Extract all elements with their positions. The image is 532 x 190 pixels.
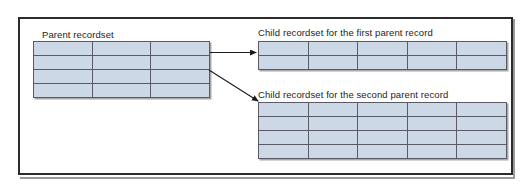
table-cell xyxy=(457,103,507,117)
table-cell xyxy=(358,145,408,159)
table-cell xyxy=(259,42,309,56)
table-cell xyxy=(309,42,359,56)
table-cell xyxy=(408,131,458,145)
table-cell xyxy=(93,42,152,56)
table-cell xyxy=(34,70,93,84)
table-cell xyxy=(457,56,507,70)
child-recordset-second-table xyxy=(258,102,507,159)
table-cell xyxy=(259,145,309,159)
table-cell xyxy=(457,42,507,56)
table-cell xyxy=(151,42,210,56)
table-cell xyxy=(309,103,359,117)
child-recordset-first-table xyxy=(258,41,507,70)
table-cell xyxy=(408,56,458,70)
frame-shadow-bottom xyxy=(20,177,515,179)
parent-recordset-label: Parent recordset xyxy=(42,29,114,40)
table-cell xyxy=(358,103,408,117)
parent-recordset-table xyxy=(33,41,210,98)
table-cell xyxy=(93,84,152,98)
child-recordset-first-label: Child recordset for the first parent rec… xyxy=(258,27,433,38)
table-cell xyxy=(358,131,408,145)
table-cell xyxy=(151,70,210,84)
table-cell xyxy=(309,145,359,159)
table-cell xyxy=(408,117,458,131)
table-cell xyxy=(34,42,93,56)
table-cell xyxy=(408,42,458,56)
table-cell xyxy=(358,56,408,70)
table-cell xyxy=(408,103,458,117)
table-cell xyxy=(259,103,309,117)
table-cell xyxy=(457,145,507,159)
table-cell xyxy=(457,131,507,145)
table-cell xyxy=(151,56,210,70)
table-cell xyxy=(259,117,309,131)
table-cell xyxy=(309,131,359,145)
table-cell xyxy=(151,84,210,98)
diagram-canvas: Parent recordset Child recordset for the… xyxy=(0,0,532,190)
table-cell xyxy=(457,117,507,131)
child-recordset-second-label: Child recordset for the second parent re… xyxy=(258,89,448,100)
table-cell xyxy=(93,70,152,84)
table-cell xyxy=(309,117,359,131)
table-cell xyxy=(34,56,93,70)
table-cell xyxy=(259,131,309,145)
frame-shadow-right xyxy=(513,19,515,177)
table-cell xyxy=(408,145,458,159)
table-cell xyxy=(309,56,359,70)
table-cell xyxy=(358,42,408,56)
table-cell xyxy=(93,56,152,70)
table-cell xyxy=(259,56,309,70)
table-cell xyxy=(358,117,408,131)
table-cell xyxy=(34,84,93,98)
